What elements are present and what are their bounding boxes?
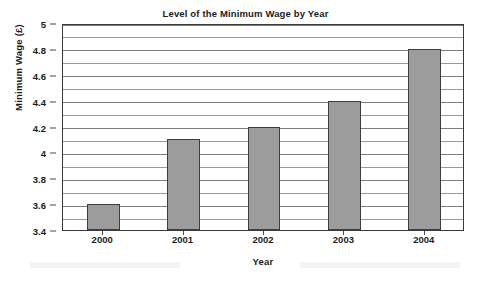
gridline: [63, 63, 463, 64]
y-tick-mark: [50, 75, 56, 76]
x-tick-label-2001: 2001: [172, 234, 193, 245]
y-tick-mark: [50, 205, 56, 206]
bar-2003: [328, 101, 361, 230]
y-axis-tick-labels: 3.43.63.844.24.44.64.85: [0, 24, 56, 231]
bar-2001: [167, 139, 200, 230]
gridline: [63, 115, 463, 116]
plot-area: [62, 24, 464, 231]
bar-2002: [248, 127, 281, 231]
x-tick-mark: [263, 231, 264, 235]
y-tick-mark: [50, 127, 56, 128]
gridline: [63, 25, 463, 26]
x-tick-label-2003: 2003: [333, 234, 354, 245]
y-tick-label: 4: [41, 148, 46, 159]
x-tick-mark: [424, 231, 425, 235]
y-tick-mark: [50, 49, 56, 50]
y-tick-label: 3.8: [33, 174, 46, 185]
gridline: [63, 50, 463, 51]
y-tick-mark: [50, 101, 56, 102]
x-tick-label-2002: 2002: [252, 234, 273, 245]
x-tick-mark: [183, 231, 184, 235]
bar-2000: [87, 204, 120, 230]
y-tick-mark: [50, 231, 56, 232]
y-tick-label: 5: [41, 19, 46, 30]
y-tick-label: 3.4: [33, 226, 46, 237]
y-tick-mark: [50, 153, 56, 154]
gridline: [63, 89, 463, 90]
y-tick-label: 4.6: [33, 70, 46, 81]
gridline: [63, 76, 463, 77]
bar-chart-figure: Level of the Minimum Wage by Year Minimu…: [0, 0, 491, 284]
x-tick-mark: [102, 231, 103, 235]
x-tick-label-2000: 2000: [92, 234, 113, 245]
x-tick-mark: [343, 231, 344, 235]
y-tick-label: 4.4: [33, 96, 46, 107]
gridline: [63, 102, 463, 103]
gridline: [63, 37, 463, 38]
x-tick-label-2004: 2004: [413, 234, 434, 245]
y-tick-mark: [50, 179, 56, 180]
bar-2004: [408, 49, 441, 230]
y-tick-label: 3.6: [33, 200, 46, 211]
chart-title: Level of the Minimum Wage by Year: [0, 8, 491, 19]
x-axis-title: Year: [62, 256, 464, 267]
y-tick-label: 4.8: [33, 44, 46, 55]
y-tick-label: 4.2: [33, 122, 46, 133]
x-axis-tick-labels: 20002001200220032004: [62, 234, 464, 250]
y-tick-mark: [50, 24, 56, 25]
